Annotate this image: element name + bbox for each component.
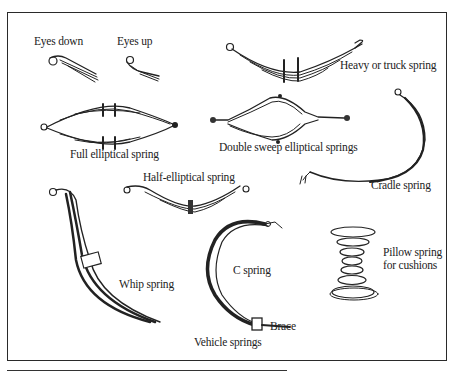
label-pillow-spring-line2: for cushions xyxy=(383,259,437,272)
label-brace: Brace xyxy=(270,320,296,333)
full-elliptical-spring-drawing xyxy=(41,104,178,149)
double-sweep-spring-drawing xyxy=(210,94,350,144)
label-double-sweep-springs: Double sweep elliptical springs xyxy=(219,141,357,154)
cradle-spring-drawing xyxy=(300,89,425,184)
eyes-down-spring-drawing xyxy=(49,56,98,82)
label-pillow-spring-line1: Pillow spring xyxy=(383,246,442,259)
half-elliptical-spring-drawing xyxy=(124,186,249,214)
figure-caption: Vehicle springs xyxy=(194,336,262,349)
eyes-up-spring-drawing xyxy=(127,57,160,82)
label-whip-spring: Whip spring xyxy=(119,278,174,291)
label-full-elliptical-spring: Full elliptical spring xyxy=(70,148,159,161)
pillow-spring-drawing xyxy=(330,227,378,300)
whip-spring-drawing xyxy=(50,189,161,323)
label-cradle-spring: Cradle spring xyxy=(371,179,431,192)
label-eyes-up: Eyes up xyxy=(117,35,152,48)
label-eyes-down: Eyes down xyxy=(34,35,83,48)
label-c-spring: C spring xyxy=(233,264,271,277)
label-half-elliptical-spring: Half-elliptical spring xyxy=(143,171,235,184)
label-heavy-truck-spring: Heavy or truck spring xyxy=(340,59,436,72)
